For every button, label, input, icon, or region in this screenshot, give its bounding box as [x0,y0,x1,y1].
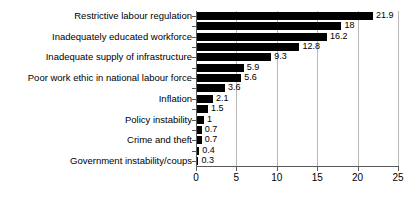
bar-value-label: 1 [207,114,212,125]
bar-value-label: 16.2 [330,31,348,42]
bar [196,105,208,113]
bar-row: 16.2 [196,33,398,41]
x-axis-tick-label: 5 [234,172,240,184]
bar-row: 0.3 [196,157,398,165]
x-axis-tick [196,167,197,171]
x-axis-tick-label: 25 [392,172,403,184]
bar [196,84,225,92]
category-label: Poor work ethic in national labour force [2,72,196,83]
bar-value-label: 0.4 [202,145,215,156]
plot-area: 21.91816.212.89.35.95.63.62.11.510.70.70… [196,11,398,166]
bar-value-label: 0.3 [201,155,214,166]
bar-row: 0.7 [196,136,398,144]
bar-value-label: 0.7 [205,134,218,145]
x-axis-tick [277,167,278,171]
bar-value-label: 1.5 [211,103,224,114]
bar-row: 18 [196,22,398,30]
x-axis-tick-label: 0 [193,172,199,184]
category-label: Crime and theft [2,134,196,145]
bar-value-label: 21.9 [376,10,394,21]
bar-row: 12.8 [196,43,398,51]
bar-row: 5.6 [196,74,398,82]
bar-value-label: 3.6 [228,82,241,93]
category-label: Government instability/coups [2,155,196,166]
bar-row: 0.7 [196,126,398,134]
x-axis-tick-label: 10 [271,172,282,184]
bar-value-label: 0.7 [205,124,218,135]
category-label: Restrictive labour regulation [2,10,196,21]
bar-row: 0.4 [196,147,398,155]
bar-row: 1.5 [196,105,398,113]
category-label: Inadequate supply of infrastructure [2,51,196,62]
bar-value-label: 9.3 [274,51,287,62]
bar [196,95,213,103]
category-label: Policy instability [2,114,196,125]
bar [196,12,373,20]
bar-row: 5.9 [196,64,398,72]
bar [196,64,244,72]
bar-value-label: 5.9 [247,62,260,73]
bar [196,22,341,30]
bar-row: 9.3 [196,53,398,61]
bar-row: 21.9 [196,12,398,20]
bar-row: 1 [196,116,398,124]
category-label: Inadequately educated workforce [2,31,196,42]
x-axis-line [196,166,399,167]
bar [196,74,241,82]
x-axis-tick [398,167,399,171]
bar-chart: 21.91816.212.89.35.95.63.62.11.510.70.70… [0,0,417,198]
bar-row: 3.6 [196,84,398,92]
x-axis-tick [317,167,318,171]
bar [196,53,271,61]
x-axis-tick-label: 20 [352,172,363,184]
x-axis-tick [358,167,359,171]
bar-value-label: 5.6 [244,72,257,83]
bar [196,116,204,124]
bar-value-label: 12.8 [302,41,320,52]
category-axis-labels: Restrictive labour regulationInadequatel… [0,11,196,166]
bar [196,43,299,51]
y-axis-line [196,11,197,167]
bar [196,33,327,41]
category-label: Inflation [2,93,196,104]
x-axis-tick-label: 15 [312,172,323,184]
gridline-25 [398,11,399,166]
bar-row: 2.1 [196,95,398,103]
bar-value-label: 2.1 [216,93,229,104]
bar-value-label: 18 [344,20,354,31]
x-axis-tick [236,167,237,171]
